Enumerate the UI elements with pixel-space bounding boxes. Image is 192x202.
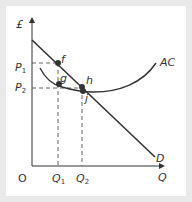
p2-label: P2 <box>15 81 26 95</box>
demand-label: D <box>156 152 164 165</box>
demand-curve <box>32 40 155 157</box>
ac-label: AC <box>159 56 176 69</box>
point-g-label: g <box>60 72 67 85</box>
x-axis-label: Q <box>158 171 167 184</box>
cost-demand-diagram: £ Q O AC D f g h j P1 P2 Q1 Q2 <box>0 0 192 202</box>
guide-lines <box>32 63 82 166</box>
q2-label: Q2 <box>76 172 89 186</box>
point-f-label: f <box>61 53 67 66</box>
q1-label: Q1 <box>52 172 65 186</box>
point-h-label: h <box>86 74 93 87</box>
p1-label: P1 <box>15 61 26 75</box>
y-axis-label: £ <box>16 18 24 31</box>
average-cost-curve <box>40 63 156 92</box>
origin-label: O <box>18 172 27 185</box>
